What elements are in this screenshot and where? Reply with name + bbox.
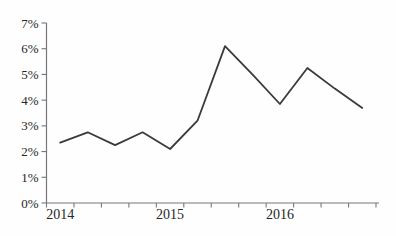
y-tick-label: 5% xyxy=(21,67,39,82)
y-ticks xyxy=(42,23,47,203)
y-tick-labels: 0%1%2%3%4%5%6%7% xyxy=(21,16,39,211)
y-tick-label: 7% xyxy=(21,16,39,31)
x-ticks xyxy=(47,203,377,208)
x-tick-label: 2015 xyxy=(156,207,184,222)
y-tick-label: 1% xyxy=(21,170,39,185)
axes xyxy=(47,23,380,203)
x-tick-labels: 201420152016 xyxy=(46,207,294,222)
y-tick-label: 6% xyxy=(21,41,39,56)
y-tick-label: 4% xyxy=(21,93,39,108)
y-tick-label: 2% xyxy=(21,144,39,159)
data-line xyxy=(60,46,362,149)
y-tick-label: 0% xyxy=(21,196,39,211)
x-tick-label: 2016 xyxy=(266,207,294,222)
x-tick-label: 2014 xyxy=(46,207,74,222)
line-chart-figure: 0%1%2%3%4%5%6%7%201420152016 xyxy=(0,0,396,236)
y-tick-label: 3% xyxy=(21,118,39,133)
line-chart: 0%1%2%3%4%5%6%7%201420152016 xyxy=(0,0,396,236)
